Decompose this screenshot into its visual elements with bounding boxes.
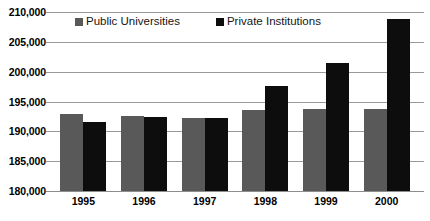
bar-chart: 210,000205,000200,000195,000190,000185,0… [0,0,430,221]
x-axis-tick-label: 1997 [174,196,235,207]
y-axis: 210,000205,000200,000195,000190,000185,0… [0,0,46,221]
y-axis-tick-label: 205,000 [0,37,46,48]
x-axis: 199519961997199819992000 [53,196,417,216]
y-axis-tick-label: 210,000 [0,7,46,18]
bar-group [182,12,228,191]
bar-group [364,12,410,191]
bar-public-2000 [364,109,387,191]
y-axis-tick-label: 190,000 [0,126,46,137]
x-axis-tick-label: 1998 [235,196,296,207]
bar-public-1999 [303,109,326,191]
bar-private-1998 [265,86,288,191]
legend-item-private: Private Institutions [216,16,321,28]
bar-private-1996 [144,117,167,191]
bar-public-1995 [60,114,83,191]
bar-public-1997 [182,118,205,191]
legend-item-public: Public Universities [75,16,180,28]
bar-public-1998 [242,110,265,191]
chart-legend: Public UniversitiesPrivate Institutions [75,16,321,28]
y-axis-tick-label: 185,000 [0,156,46,167]
x-axis-tick-label: 1996 [114,196,175,207]
bar-private-1995 [83,122,106,191]
y-axis-tick-label: 180,000 [0,186,46,197]
legend-swatch-public-icon [75,18,83,26]
legend-swatch-private-icon [216,18,224,26]
x-axis-tick-label: 1999 [296,196,357,207]
bar-private-1997 [205,118,228,191]
bar-group [242,12,288,191]
x-axis-tick-label: 1995 [53,196,114,207]
bar-group [60,12,106,191]
axis-baseline [46,191,424,192]
x-axis-tick-label: 2000 [356,196,417,207]
bar-group [303,12,349,191]
legend-label: Private Institutions [227,16,321,28]
y-axis-tick-label: 195,000 [0,97,46,108]
bar-public-1996 [121,116,144,191]
y-axis-tick-label: 200,000 [0,67,46,78]
bars-layer [53,12,417,191]
bar-group [121,12,167,191]
plot-area [53,12,417,191]
bar-private-1999 [326,63,349,191]
bar-private-2000 [387,19,410,191]
legend-label: Public Universities [86,16,180,28]
